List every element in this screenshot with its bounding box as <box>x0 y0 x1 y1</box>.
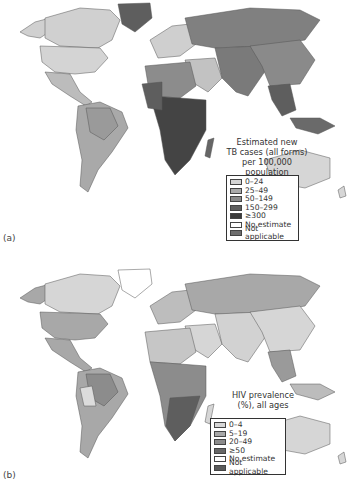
hiv-prevalence-map-panel: HIV prevalence (%), all ages 0–4 5–19 20… <box>0 238 355 483</box>
legend-item: Not applicable <box>214 464 282 473</box>
legend-swatch <box>230 196 242 202</box>
legend-swatch <box>230 179 242 185</box>
panel-label-b: (b) <box>3 470 16 480</box>
legend-title-line: (%), all ages <box>218 400 308 410</box>
tb-legend-title: Estimated new TB cases (all forms) per 1… <box>212 137 322 177</box>
legend-swatch <box>230 213 242 219</box>
legend-item: 20–49 <box>214 438 282 447</box>
legend-title-line: HIV prevalence <box>218 390 308 400</box>
legend-swatch <box>214 439 226 445</box>
legend-title-line: Estimated new <box>212 137 322 147</box>
legend-swatch <box>230 222 242 228</box>
legend-swatch <box>214 448 226 454</box>
legend-swatch <box>230 205 242 211</box>
hiv-legend-title: HIV prevalence (%), all ages <box>218 390 308 410</box>
legend-swatch <box>214 456 226 462</box>
legend-swatch <box>214 422 226 428</box>
legend-title-line: TB cases (all forms) <box>212 147 322 157</box>
hiv-legend: 0–4 5–19 20–49 ≥50 No estimate Not appli… <box>210 418 286 475</box>
tb-incidence-map-panel: Estimated new TB cases (all forms) per 1… <box>0 0 355 225</box>
legend-swatch <box>214 431 226 437</box>
legend-item: 0–4 <box>214 421 282 430</box>
legend-swatch <box>230 188 242 194</box>
tb-legend: 0–24 25–49 50–149 150–299 ≥300 No estima… <box>226 175 299 241</box>
legend-label: Not applicable <box>229 459 282 476</box>
hiv-world-map <box>0 238 355 483</box>
legend-swatch <box>230 230 242 236</box>
tb-world-map <box>0 0 355 225</box>
legend-item: Not applicable <box>230 229 295 238</box>
legend-swatch <box>214 465 226 471</box>
legend-title-line: per 100,000 <box>212 157 322 167</box>
